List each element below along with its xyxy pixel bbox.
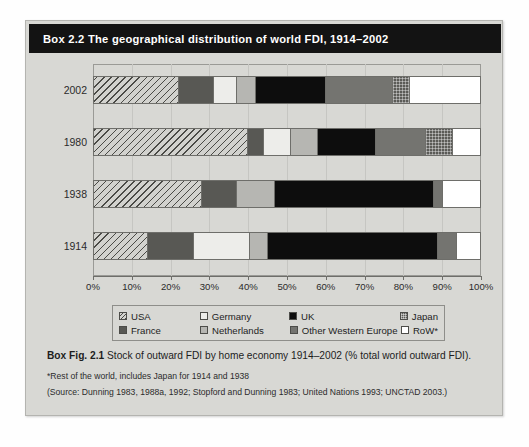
figure-caption-text: Stock of outward FDI by home economy 191… xyxy=(104,350,471,361)
bar-segment-2002-japan xyxy=(393,77,410,103)
legend-item-row: RoW* xyxy=(401,325,438,336)
bar-segment-2002-france xyxy=(179,77,214,103)
legend-item-usa: USA xyxy=(119,311,200,322)
bar-segment-1938-owe xyxy=(434,181,444,207)
bar-1914 xyxy=(93,232,481,260)
legend-swatch-icon xyxy=(119,312,127,320)
chart-area: 2002198019381914 0%10%20%30%40%50%60%70%… xyxy=(47,64,481,291)
x-tick xyxy=(326,276,327,280)
box-title: Box 2.2 The geographical distribution of… xyxy=(29,33,388,45)
x-tick-label-0%: 0% xyxy=(86,281,100,292)
bar-segment-1980-row xyxy=(453,129,480,155)
legend-label: Netherlands xyxy=(212,325,264,336)
legend-label: Other Western Europe xyxy=(302,325,398,336)
x-tick xyxy=(481,276,482,280)
bar-segment-1980-owe xyxy=(376,129,426,155)
figure-box: Box 2.2 The geographical distribution of… xyxy=(25,20,503,416)
legend-item-germany: Germany xyxy=(200,311,289,322)
bar-segment-1938-row xyxy=(443,181,480,207)
legend-label: Japan xyxy=(412,311,438,322)
x-tick xyxy=(248,276,249,280)
figure-caption: Box Fig. 2.1 Stock of outward FDI by hom… xyxy=(47,349,487,363)
legend-label: France xyxy=(131,325,161,336)
legend-label: Germany xyxy=(212,311,251,322)
x-tick-label-30%: 30% xyxy=(200,281,219,292)
x-tick-label-80%: 80% xyxy=(394,281,413,292)
x-tick xyxy=(403,276,404,280)
bar-segment-1938-france xyxy=(202,181,237,207)
chart-legend: USAGermanyUKJapan FranceNetherlandsOther… xyxy=(112,305,445,341)
legend-swatch-icon xyxy=(400,312,408,320)
figure-footnote: *Rest of the world, includes Japan for 1… xyxy=(47,370,487,383)
figure-caption-label: Box Fig. 2.1 xyxy=(47,350,104,361)
x-tick xyxy=(132,276,133,280)
x-tick-label-50%: 50% xyxy=(277,281,296,292)
bar-1980 xyxy=(93,128,481,156)
y-axis-label-1938: 1938 xyxy=(47,180,87,208)
bar-segment-2002-row xyxy=(410,77,479,103)
legend-item-japan: Japan xyxy=(400,311,438,322)
bar-segment-1914-netherlands xyxy=(250,233,267,259)
legend-swatch-icon xyxy=(119,326,127,334)
legend-item-france: France xyxy=(119,325,200,336)
y-axis-label-1980: 1980 xyxy=(47,128,87,156)
bar-segment-1980-netherlands xyxy=(291,129,318,155)
bar-segment-2002-germany xyxy=(214,77,237,103)
bar-segment-1914-france xyxy=(148,233,194,259)
x-tick xyxy=(209,276,210,280)
bar-segment-1914-row xyxy=(457,233,480,259)
bar-segment-1980-france xyxy=(248,129,263,155)
x-tick-label-100%: 100% xyxy=(469,281,494,292)
bar-segment-2002-usa xyxy=(94,77,179,103)
x-tick-label-10%: 10% xyxy=(122,281,141,292)
legend-item-uk: UK xyxy=(289,311,400,322)
legend-row-top: USAGermanyUKJapan xyxy=(119,309,438,323)
bar-segment-1938-uk xyxy=(275,181,433,207)
bar-1938 xyxy=(93,180,481,208)
bar-segment-2002-uk xyxy=(256,77,325,103)
x-tick-label-60%: 60% xyxy=(316,281,335,292)
x-tick xyxy=(171,276,172,280)
x-tick xyxy=(442,276,443,280)
x-tick xyxy=(93,276,94,280)
bar-2002 xyxy=(93,76,481,104)
bar-segment-1980-germany xyxy=(264,129,291,155)
legend-swatch-icon xyxy=(200,312,208,320)
x-tick xyxy=(365,276,366,280)
legend-swatch-icon xyxy=(401,326,409,334)
legend-item-netherlands: Netherlands xyxy=(200,325,290,336)
x-tick-label-40%: 40% xyxy=(239,281,258,292)
bar-segment-1980-japan xyxy=(426,129,453,155)
bar-segment-1980-uk xyxy=(318,129,376,155)
legend-label: USA xyxy=(131,311,151,322)
bar-segment-1914-uk xyxy=(268,233,438,259)
box-header: Box 2.2 The geographical distribution of… xyxy=(29,24,501,53)
figure-source: (Source: Dunning 1983, 1988a, 1992; Stop… xyxy=(47,386,487,399)
bar-segment-2002-netherlands xyxy=(237,77,256,103)
bar-segment-2002-owe xyxy=(326,77,394,103)
bar-segment-1938-netherlands xyxy=(237,181,276,207)
legend-swatch-icon xyxy=(200,326,208,334)
y-axis-label-1914: 1914 xyxy=(47,232,87,260)
x-tick xyxy=(287,276,288,280)
caption-block: Box Fig. 2.1 Stock of outward FDI by hom… xyxy=(47,349,487,399)
legend-item-other-western-europe: Other Western Europe xyxy=(290,325,401,336)
legend-label: RoW* xyxy=(413,325,438,336)
legend-swatch-icon xyxy=(290,326,298,334)
page-root: Box 2.2 The geographical distribution of… xyxy=(0,0,529,447)
bar-segment-1980-usa xyxy=(94,129,248,155)
x-tick-label-20%: 20% xyxy=(161,281,180,292)
legend-swatch-icon xyxy=(289,312,297,320)
y-axis-label-2002: 2002 xyxy=(47,76,87,104)
legend-label: UK xyxy=(301,311,314,322)
bar-segment-1938-usa xyxy=(94,181,202,207)
legend-row-bottom: FranceNetherlandsOther Western EuropeRoW… xyxy=(119,323,438,337)
x-tick-label-70%: 70% xyxy=(355,281,374,292)
bar-segment-1914-owe xyxy=(438,233,457,259)
bar-segment-1914-usa xyxy=(94,233,148,259)
bar-segment-1914-germany xyxy=(194,233,250,259)
x-tick-label-90%: 90% xyxy=(433,281,452,292)
